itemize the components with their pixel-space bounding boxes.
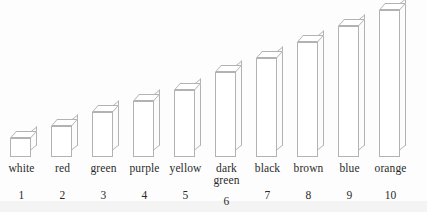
bar-category-label-line: orange [370, 162, 411, 174]
bar-front-face [256, 58, 277, 157]
bar-group: purple4 [124, 0, 165, 212]
bar-front-face [51, 126, 72, 157]
bar-category-label: green [83, 162, 124, 174]
bar-front-face [379, 10, 400, 157]
bar-front-face [133, 101, 154, 157]
bar-category-label-line: green [83, 162, 124, 174]
bar-3d-box [256, 58, 277, 157]
bar-front-face [297, 42, 318, 157]
bar-3d-box [297, 42, 318, 157]
bar-category-label-line: white [1, 162, 42, 174]
bar-category-label-line: green [206, 174, 247, 186]
bar-group: orange10 [370, 0, 411, 212]
bar-3d-box [174, 90, 195, 157]
chart-page: white1red2green3purple4yellow5darkgreen6… [0, 0, 427, 212]
bar-front-face [174, 90, 195, 157]
bar-side-face [276, 46, 283, 151]
bar-group: brown8 [288, 0, 329, 212]
bar-3d-box [338, 26, 359, 157]
bar-tick-number: 2 [42, 189, 83, 201]
bar-group: black7 [247, 0, 288, 212]
bar-category-label: white [1, 162, 42, 174]
bar-tick-number: 9 [329, 189, 370, 201]
bar-category-label: orange [370, 162, 411, 174]
bar-3d-box [51, 126, 72, 157]
bar-group: white1 [1, 0, 42, 212]
bar-front-face [215, 72, 236, 157]
bar-group: red2 [42, 0, 83, 212]
bar-category-label-line: blue [329, 162, 370, 174]
bar-category-label: blue [329, 162, 370, 174]
bar-tick-number: 1 [1, 189, 42, 201]
bar-tick-number: 6 [206, 195, 247, 207]
bar-group: yellow5 [165, 0, 206, 212]
bar-tick-number: 3 [83, 189, 124, 201]
bar-category-label: yellow [165, 162, 206, 174]
bar-3d-box [215, 72, 236, 157]
bar-chart-plot: white1red2green3purple4yellow5darkgreen6… [0, 0, 427, 212]
bar-front-face [92, 112, 113, 157]
bar-group: darkgreen6 [206, 0, 247, 212]
bar-group: green3 [83, 0, 124, 212]
bar-group: blue9 [329, 0, 370, 212]
bar-3d-box [92, 112, 113, 157]
bar-category-label-line: yellow [165, 162, 206, 174]
bar-category-label: black [247, 162, 288, 174]
bar-3d-box [379, 10, 400, 157]
bar-side-face [358, 14, 365, 151]
bar-category-label: brown [288, 162, 329, 174]
bar-category-label: purple [124, 162, 165, 174]
bar-category-label-line: black [247, 162, 288, 174]
bar-3d-box [133, 101, 154, 157]
bar-category-label-line: purple [124, 162, 165, 174]
bar-side-face [317, 30, 324, 151]
bar-category-label: red [42, 162, 83, 174]
bar-side-face [235, 60, 242, 151]
bar-category-label-line: red [42, 162, 83, 174]
bar-category-label-line: brown [288, 162, 329, 174]
bar-tick-number: 7 [247, 189, 288, 201]
bar-front-face [338, 26, 359, 157]
bar-3d-box [10, 138, 31, 157]
bar-tick-number: 4 [124, 189, 165, 201]
bar-category-label-line: dark [206, 162, 247, 174]
bar-side-face [399, 0, 406, 151]
bar-tick-number: 8 [288, 189, 329, 201]
bar-side-face [30, 126, 37, 151]
bar-tick-number: 5 [165, 189, 206, 201]
bar-tick-number: 10 [370, 189, 411, 201]
bar-category-label: darkgreen [206, 162, 247, 186]
bar-front-face [10, 138, 31, 157]
